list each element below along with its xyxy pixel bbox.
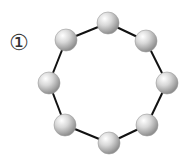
sphere-node [54, 114, 76, 136]
sphere-node [97, 12, 119, 34]
sphere-node [156, 72, 178, 94]
ring-nodes [38, 12, 178, 154]
sphere-node [135, 30, 157, 52]
sphere-node [38, 72, 60, 94]
ring-diagram: ① [0, 0, 191, 165]
ring-graph [0, 0, 191, 165]
sphere-node [55, 29, 77, 51]
sphere-node [136, 114, 158, 136]
sphere-node [98, 132, 120, 154]
